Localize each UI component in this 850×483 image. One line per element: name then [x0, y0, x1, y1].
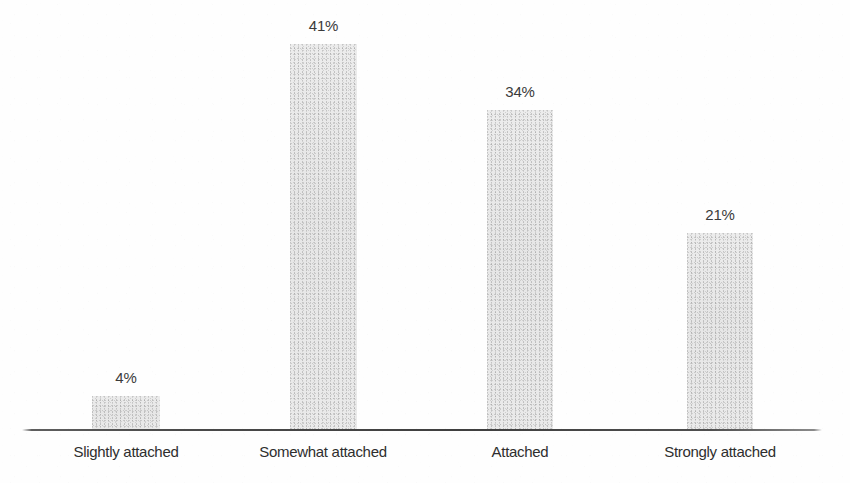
x-axis-tick-label-slightly-attached: Slightly attached: [26, 443, 226, 461]
bar-chart-figure: 4% 41% 34% 21% Slightly attached Somewha…: [0, 0, 850, 483]
bar-somewhat-attached: [290, 44, 357, 429]
bar-attached: [487, 110, 553, 429]
bar-value-label-somewhat-attached: 41%: [290, 18, 357, 34]
x-axis-tick-label-attached: Attached: [420, 443, 620, 461]
bar-value-label-slightly-attached: 4%: [92, 370, 160, 386]
bar-strongly-attached: [687, 233, 753, 429]
plot-area: 4% 41% 34% 21% Slightly attached Somewha…: [0, 0, 850, 483]
bar-slightly-attached: [92, 396, 160, 429]
x-axis-line: [22, 429, 822, 431]
bar-value-label-strongly-attached: 21%: [687, 207, 753, 223]
x-axis-tick-label-strongly-attached: Strongly attached: [620, 443, 820, 461]
x-axis-tick-label-somewhat-attached: Somewhat attached: [223, 443, 423, 461]
bar-value-label-attached: 34%: [487, 84, 553, 100]
